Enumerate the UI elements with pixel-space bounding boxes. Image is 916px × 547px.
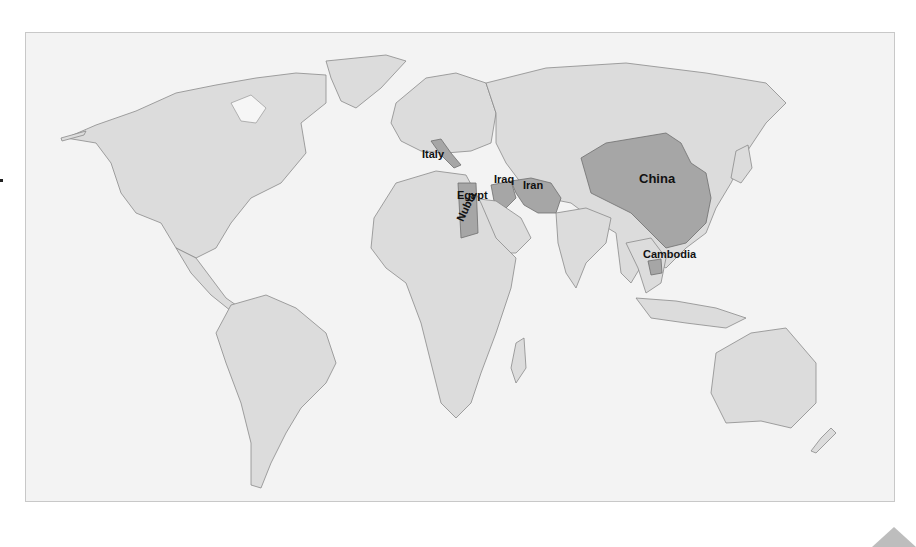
greenland [326, 55, 406, 108]
cambodia [648, 259, 662, 275]
label-iraq: Iraq [494, 173, 514, 185]
label-italy: Italy [422, 148, 444, 160]
north-america [66, 73, 326, 258]
map-canvas [26, 33, 895, 502]
australia [711, 328, 816, 428]
bullet-dot [0, 179, 3, 182]
label-china: China [639, 171, 675, 186]
world-map: Italy Egypt Nubia Iraq Iran China Cambod… [25, 32, 895, 502]
south-america [216, 295, 336, 488]
label-cambodia: Cambodia [643, 248, 696, 260]
europe [391, 73, 496, 153]
triangle-up-icon[interactable] [872, 527, 916, 547]
label-iran: Iran [523, 179, 543, 191]
india [556, 208, 611, 288]
